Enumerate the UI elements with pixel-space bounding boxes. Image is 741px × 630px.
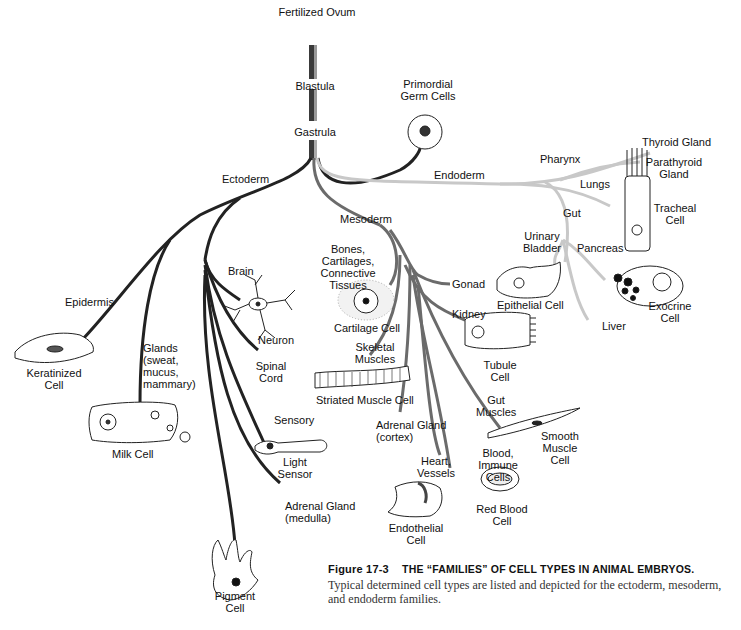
ectoderm-lines [82,158,311,545]
endothelial-cell-icon [388,482,442,517]
label-ectoderm: Ectoderm [222,173,269,185]
trunk-lines [309,45,317,160]
label-gut: Gut [563,207,581,219]
label-gut-muscles: Gut Muscles [476,394,516,418]
figure-caption-body: Typical determined cell types are listed… [328,578,728,606]
label-adrenal-cortex: Adrenal Gland (cortex) [376,419,446,443]
figure-title: THE “FAMILIES” OF CELL TYPES IN ANIMAL E… [402,563,694,575]
label-tubule-cell: Tubule Cell [478,359,522,383]
label-milk-cell: Milk Cell [112,448,154,460]
label-liver: Liver [602,320,626,332]
label-mesoderm: Mesoderm [340,213,392,225]
label-neuron: Neuron [258,334,294,346]
lineage-tree-lines [0,0,741,630]
cell-lineage-diagram: Fertilized Ovum Blastula Gastrula Primor… [0,0,741,630]
label-keratinized-cell: Keratinized Cell [24,367,84,391]
figure-number: Figure 17-3 [328,563,389,575]
label-kidney: Kidney [452,308,486,320]
label-red-blood-cell: Red Blood Cell [474,503,530,527]
label-lungs: Lungs [580,178,610,190]
label-gastrula: Gastrula [288,126,342,138]
label-pancreas: Pancreas [577,242,623,254]
label-smooth-muscle-cell: Smooth Muscle Cell [538,430,582,466]
label-striated-muscle-cell: Striated Muscle Cell [316,394,414,406]
light-sensor-icon [255,440,327,454]
label-glands: Glands (sweat, mucus, mammary) [143,342,196,390]
label-epidermis: Epidermis [65,296,114,308]
striated-muscle-cell-icon [315,366,410,388]
label-thyroid-gland: Thyroid Gland [642,136,711,148]
milk-cell-icon [89,402,178,443]
neuron-icon [222,275,295,340]
label-blastula: Blastula [290,80,340,92]
germ-line [318,148,420,183]
label-epithelial-cell: Epithelial Cell [497,299,564,311]
label-skeletal-muscles: Skeletal Muscles [350,341,400,365]
label-bones-cartilages: Bones, Cartilages, Connective Tissues [318,243,378,291]
label-endothelial-cell: Endothelial Cell [386,522,446,546]
label-gonad: Gonad [452,278,485,290]
label-sensory: Sensory [274,414,314,426]
label-pharynx: Pharynx [540,153,580,165]
label-brain: Brain [228,265,254,277]
figure-caption-title: Figure 17-3 THE “FAMILIES” OF CELL TYPES… [328,563,694,575]
label-primordial-germ-cells: Primordial Germ Cells [398,78,458,102]
label-adrenal-medulla: Adrenal Gland (medulla) [285,500,355,524]
label-spinal-cord: Spinal Cord [253,360,289,384]
label-blood-immune-cells: Blood, Immune Cells [476,447,520,483]
label-light-sensor: Light Sensor [275,456,315,480]
label-heart-vessels: Heart, Vessels [414,455,458,479]
label-endoderm: Endoderm [434,169,485,181]
label-exocrine-cell: Exocrine Cell [648,300,692,324]
label-pigment-cell: Pigment Cell [212,590,258,614]
label-tracheal-cell: Tracheal Cell [653,202,697,226]
epithelial-cell-icon [497,262,561,298]
label-cartilage-cell: Cartilage Cell [334,322,400,334]
label-fertilized-ovum: Fertilized Ovum [272,6,362,18]
label-urinary-bladder: Urinary Bladder [520,230,564,254]
label-parathyroid-gland: Parathyroid Gland [643,156,705,180]
